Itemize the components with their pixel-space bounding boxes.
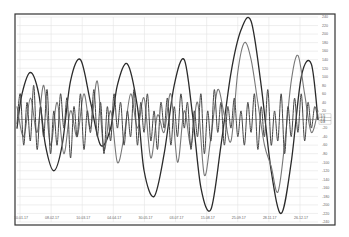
x-tick-label: 03.07.17 xyxy=(170,216,184,220)
y-tick-label: 120 xyxy=(322,67,328,71)
x-tick-label: 04.04.17 xyxy=(107,216,121,220)
value-tags: 5.52.40.8 xyxy=(319,114,331,125)
y-tick-label: 80 xyxy=(322,84,326,88)
y-tick-label: 220 xyxy=(322,24,328,28)
x-tick-label: 30.05.17 xyxy=(138,216,152,220)
y-tick-label: -120 xyxy=(322,169,329,173)
x-tick-label: 15.08.17 xyxy=(201,216,215,220)
y-tick-label: -100 xyxy=(322,161,329,165)
value-tag: 0.8 xyxy=(321,120,326,124)
y-tick-label: -220 xyxy=(322,212,329,216)
y-tick-label: -20 xyxy=(322,126,327,130)
y-tick-label: -60 xyxy=(322,143,327,147)
y-tick-label: 100 xyxy=(322,75,328,79)
y-tick-label: 200 xyxy=(322,32,328,36)
x-tick-label: 25.09.17 xyxy=(232,216,246,220)
y-tick-label: -180 xyxy=(322,195,329,199)
y-tick-label: -160 xyxy=(322,186,329,190)
x-tick-label: 08.02.17 xyxy=(45,216,59,220)
x-tick-label: 10.01.17 xyxy=(14,216,28,220)
y-tick-label: 180 xyxy=(322,41,328,45)
x-tick-label: 28.11.17 xyxy=(263,216,277,220)
y-tick-label: -200 xyxy=(322,203,329,207)
y-tick-label: 160 xyxy=(322,49,328,53)
y-tick-label: 140 xyxy=(322,58,328,62)
x-tick-label: 26.12.17 xyxy=(294,216,308,220)
y-tick-label: -40 xyxy=(322,135,327,139)
y-tick-label: -140 xyxy=(322,178,329,182)
y-tick-label: 60 xyxy=(322,92,326,96)
x-tick-label: 10.03.17 xyxy=(76,216,90,220)
y-tick-label: -80 xyxy=(322,152,327,156)
line-chart: 240220200180160140120100806040200-20-40-… xyxy=(0,0,349,237)
y-tick-label: 240 xyxy=(322,15,328,19)
y-tick-label: 40 xyxy=(322,101,326,105)
y-tick-label: -240 xyxy=(322,220,329,224)
